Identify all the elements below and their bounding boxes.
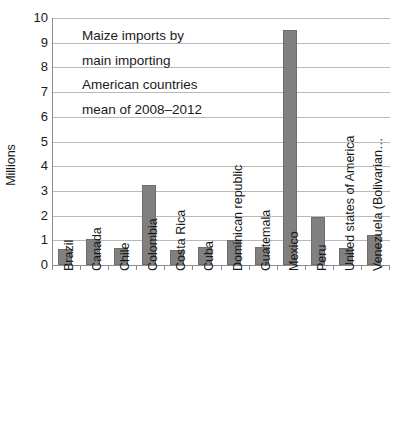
x-axis-tick	[221, 265, 222, 270]
x-axis-category-label-text: Brazil	[63, 240, 76, 271]
x-axis-category-label-text: Cuba	[203, 241, 216, 271]
x-axis-tick	[192, 265, 193, 270]
x-axis-tick	[389, 265, 390, 270]
x-axis-tick	[305, 265, 306, 270]
x-axis-category-label-text: Chile	[119, 243, 132, 272]
y-axis-tick-label: 4	[2, 159, 48, 172]
x-axis-category-label-text: Costa Rica	[175, 210, 188, 271]
x-axis-category-label-text: Dominican republic	[232, 165, 245, 271]
x-axis-tick	[80, 265, 81, 270]
y-axis-tick-label: 7	[2, 85, 48, 98]
y-axis-tick-labels: 012345678910	[0, 18, 48, 265]
x-axis-category-label-text: Colombia	[147, 218, 160, 271]
x-axis-category-label-text: Guatemala	[260, 210, 273, 271]
y-axis-tick-label: 8	[2, 60, 48, 73]
x-axis-tick	[108, 265, 109, 270]
x-axis-tick	[361, 265, 362, 270]
x-axis-tick	[52, 265, 53, 270]
chart-title-line: mean of 2008–2012	[82, 98, 312, 123]
y-axis-tick-label: 9	[2, 36, 48, 49]
x-axis-category-label-text: United states of America	[344, 136, 357, 271]
x-axis-category-label-text: Venezuela (Bolivarian…	[372, 138, 385, 271]
x-axis-tick	[136, 265, 137, 270]
y-axis-tick-label: 2	[2, 209, 48, 222]
y-axis-tick-label: 0	[2, 258, 48, 271]
y-axis-tick-label: 6	[2, 110, 48, 123]
x-axis-category-label-text: Peru	[316, 245, 329, 271]
y-axis-tick-label: 3	[2, 184, 48, 197]
x-axis-category-labels: BrazilCanadaChileColombiaCosta RicaCubaD…	[52, 271, 390, 439]
y-axis-tick-label: 10	[2, 11, 48, 24]
x-axis-tick	[277, 265, 278, 270]
x-axis-category-label-text: Mexico	[288, 231, 301, 271]
chart-title-annotation: Maize imports bymain importingAmerican c…	[82, 24, 312, 123]
chart-title-line: American countries	[82, 73, 312, 98]
x-axis-tick	[249, 265, 250, 270]
x-axis-category-label-text: Canada	[91, 227, 104, 271]
chart-title-line: main importing	[82, 49, 312, 74]
chart-title-line: Maize imports by	[82, 24, 312, 49]
x-axis-tick	[333, 265, 334, 270]
x-axis-tick	[164, 265, 165, 270]
y-axis-tick-label: 1	[2, 233, 48, 246]
bar-chart-figure: Millions 012345678910 BrazilCanadaChileC…	[0, 0, 399, 441]
y-axis-tick-label: 5	[2, 135, 48, 148]
